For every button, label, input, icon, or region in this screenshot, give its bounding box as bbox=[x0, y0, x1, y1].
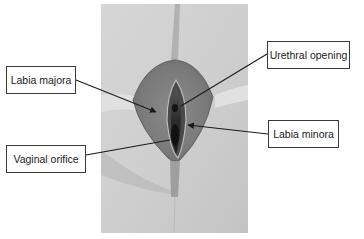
label-labia-minora: Labia minora bbox=[268, 120, 339, 148]
urethral-opening-shape bbox=[172, 104, 178, 112]
label-text: Labia majora bbox=[11, 74, 72, 86]
vaginal-orifice-shape bbox=[171, 124, 179, 146]
label-urethral-opening: Urethral opening bbox=[267, 41, 350, 69]
model-photo bbox=[101, 4, 248, 233]
label-text: Labia minora bbox=[273, 128, 334, 140]
label-text: Vaginal orifice bbox=[13, 153, 78, 165]
label-text: Urethral opening bbox=[270, 49, 348, 61]
label-labia-majora: Labia majora bbox=[6, 66, 76, 94]
label-vaginal-orifice: Vaginal orifice bbox=[6, 145, 86, 173]
